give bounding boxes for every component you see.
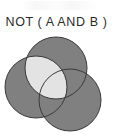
venn-diagram <box>0 32 113 140</box>
scan-artifact-smudge-icon <box>22 1 98 10</box>
figure-title: NOT ( A AND B ) <box>0 15 113 30</box>
venn-figure: NOT ( A AND B ) <box>0 0 113 140</box>
